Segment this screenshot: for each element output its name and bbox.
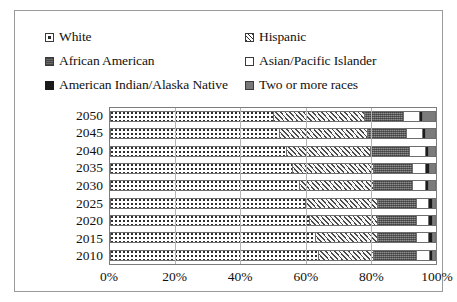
bar-segment-white: [111, 199, 305, 208]
bar-segment-african: [373, 181, 412, 190]
legend-item-amind[interactable]: American Indian/Alaska Native: [45, 78, 245, 92]
bar-row: [110, 212, 436, 229]
american-indian-swatch-icon: [45, 81, 54, 90]
x-axis-tick-label: 100%: [421, 269, 453, 285]
bar-segment-african: [377, 216, 416, 225]
bar-segment-asian: [403, 112, 419, 121]
x-axis-labels: 0%20%40%60%80%100%: [109, 269, 437, 289]
hispanic-hatch-swatch-icon: [245, 33, 254, 42]
x-axis-tick-label: 60%: [293, 269, 318, 285]
african-american-swatch-icon: [45, 57, 54, 66]
stacked-bar[interactable]: [110, 111, 436, 122]
legend-item-african[interactable]: African American: [45, 54, 245, 68]
bar-row: [110, 229, 436, 246]
bar-segment-african: [377, 233, 416, 242]
stacked-bar[interactable]: [110, 232, 436, 243]
stacked-bar[interactable]: [110, 250, 436, 261]
y-axis-tick-label: 2040: [63, 142, 109, 160]
bar-segment-hispanic: [315, 233, 377, 242]
bar-segment-african: [373, 251, 415, 260]
bar-segment-asian: [412, 181, 425, 190]
bar-segment-two: [432, 216, 435, 225]
plot-area: [109, 107, 437, 265]
stacked-bars: [110, 108, 436, 264]
bar-segment-white: [111, 147, 286, 156]
bar-segment-asian: [412, 164, 425, 173]
bar-segment-asian: [416, 251, 429, 260]
y-axis-tick-label: 2045: [63, 125, 109, 143]
stacked-bar[interactable]: [110, 215, 436, 226]
bar-row: [110, 195, 436, 212]
y-axis-labels: 205020452040203520302025202020152010: [63, 107, 109, 265]
bar-segment-asian: [416, 199, 429, 208]
bar-segment-hispanic: [309, 216, 377, 225]
bar-segment-hispanic: [318, 251, 373, 260]
bar-segment-white: [111, 181, 299, 190]
bar-segment-asian: [416, 216, 429, 225]
bar-segment-asian: [406, 129, 422, 138]
y-axis-tick-label: 2035: [63, 160, 109, 178]
asian-pacific-islander-swatch-icon: [245, 57, 254, 66]
bar-segment-two: [432, 251, 435, 260]
bar-segment-african: [367, 129, 406, 138]
y-axis-tick-label: 2010: [63, 248, 109, 266]
bar-row: [110, 160, 436, 177]
chart-screenshot: WhiteHispanicAfrican AmericanAsian/Pacif…: [0, 0, 457, 302]
bar-segment-african: [373, 164, 412, 173]
y-axis-tick-label: 2050: [63, 107, 109, 125]
legend-label: African American: [59, 54, 154, 68]
bar-segment-two: [422, 112, 435, 121]
legend-item-asian[interactable]: Asian/Pacific Islander: [245, 54, 417, 68]
stacked-bar[interactable]: [110, 180, 436, 191]
y-axis-tick-label: 2020: [63, 212, 109, 230]
legend-label: Hispanic: [259, 30, 306, 44]
bar-segment-hispanic: [279, 129, 366, 138]
bar-segment-white: [111, 216, 309, 225]
bar-segment-two: [432, 233, 435, 242]
bar-segment-hispanic: [286, 147, 370, 156]
stacked-bar[interactable]: [110, 128, 436, 139]
legend-item-two[interactable]: Two or more races: [245, 78, 417, 92]
bar-segment-african: [364, 112, 403, 121]
bar-segment-white: [111, 251, 318, 260]
bar-segment-white: [111, 164, 292, 173]
bar-segment-two: [425, 129, 435, 138]
y-axis-tick-label: 2015: [63, 230, 109, 248]
bar-segment-hispanic: [273, 112, 364, 121]
bar-segment-african: [377, 199, 416, 208]
bar-segment-white: [111, 233, 315, 242]
bar-segment-hispanic: [305, 199, 376, 208]
stacked-bar[interactable]: [110, 198, 436, 209]
bar-segment-asian: [409, 147, 425, 156]
bar-segment-two: [429, 164, 435, 173]
bar-segment-hispanic: [292, 164, 373, 173]
bar-segment-african: [370, 147, 409, 156]
x-axis-tick-label: 80%: [359, 269, 384, 285]
x-axis-tick-label: 20%: [162, 269, 187, 285]
stacked-bar[interactable]: [110, 163, 436, 174]
y-axis-tick-label: 2025: [63, 195, 109, 213]
legend-item-hispanic[interactable]: Hispanic: [245, 30, 417, 44]
plot-area-wrapper: 205020452040203520302025202020152010: [63, 107, 437, 265]
bar-row: [110, 125, 436, 142]
legend-label: Two or more races: [259, 78, 358, 92]
x-axis-tick-label: 40%: [228, 269, 253, 285]
bar-segment-asian: [416, 233, 429, 242]
chart-frame: WhiteHispanicAfrican AmericanAsian/Pacif…: [14, 10, 443, 292]
gridline: [436, 108, 437, 264]
chart-legend: WhiteHispanicAfrican AmericanAsian/Pacif…: [45, 25, 417, 97]
bar-row: [110, 143, 436, 160]
bar-segment-white: [111, 129, 279, 138]
legend-label: American Indian/Alaska Native: [59, 78, 228, 92]
y-axis-tick-label: 2030: [63, 177, 109, 195]
stacked-bar[interactable]: [110, 146, 436, 157]
bar-row: [110, 247, 436, 264]
bar-segment-two: [432, 199, 435, 208]
x-axis-tick-label: 0%: [100, 269, 118, 285]
legend-item-white[interactable]: White: [45, 30, 245, 44]
bar-segment-hispanic: [299, 181, 374, 190]
bar-segment-white: [111, 112, 273, 121]
white-dotted-swatch-icon: [45, 33, 54, 42]
bar-row: [110, 177, 436, 194]
legend-label: White: [59, 30, 92, 44]
